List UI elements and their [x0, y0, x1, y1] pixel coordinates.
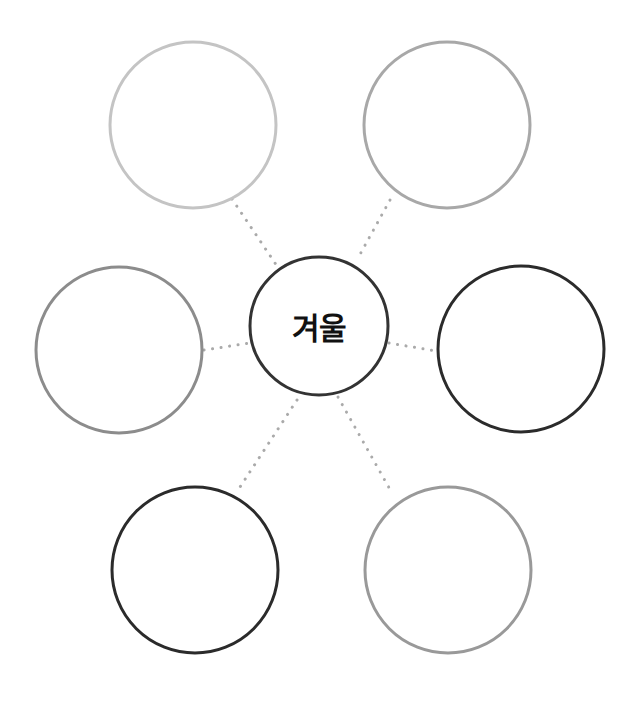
- node-top-right[interactable]: [364, 42, 530, 208]
- node-bottom-left[interactable]: [112, 487, 278, 653]
- connector-bottom-right: [338, 397, 392, 493]
- node-middle-left[interactable]: [36, 267, 202, 433]
- connector-top-left: [232, 199, 277, 266]
- connector-bottom-left: [240, 400, 297, 487]
- connector-middle-left: [204, 343, 250, 350]
- node-top-left[interactable]: [110, 42, 276, 208]
- connector-top-right: [358, 200, 390, 258]
- node-middle-right[interactable]: [438, 266, 604, 432]
- node-bottom-right[interactable]: [365, 487, 531, 653]
- connector-middle-right: [389, 343, 436, 351]
- center-node-label: 겨울: [250, 257, 388, 395]
